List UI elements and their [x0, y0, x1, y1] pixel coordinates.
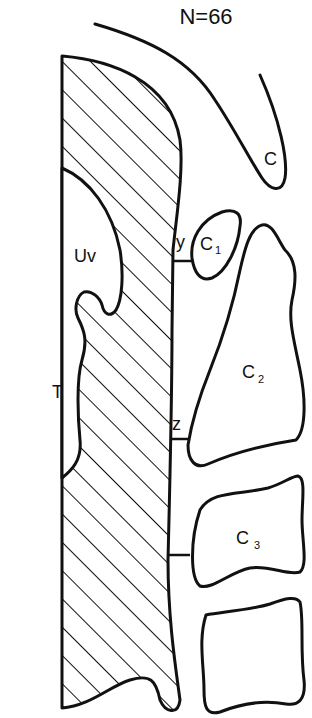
- label-c3-subscript: 3: [254, 539, 260, 551]
- label-c1-subscript: 1: [215, 244, 221, 256]
- label-tongue: T: [52, 382, 63, 402]
- vertebra-c4: [202, 598, 304, 713]
- label-c2: C: [242, 362, 255, 382]
- label-c1: C: [200, 234, 213, 254]
- label-point-y: y: [176, 232, 185, 252]
- label-c2-subscript: 2: [258, 373, 264, 385]
- label-point-z: z: [172, 414, 181, 434]
- pharyngeal-airway-diagram: N=66 C Uv T y z C 1 C 2 C 3: [0, 0, 312, 718]
- label-c3: C: [236, 528, 249, 548]
- label-c: C: [264, 149, 277, 169]
- label-uvula: Uv: [74, 246, 96, 266]
- sample-size-title: N=66: [179, 4, 232, 29]
